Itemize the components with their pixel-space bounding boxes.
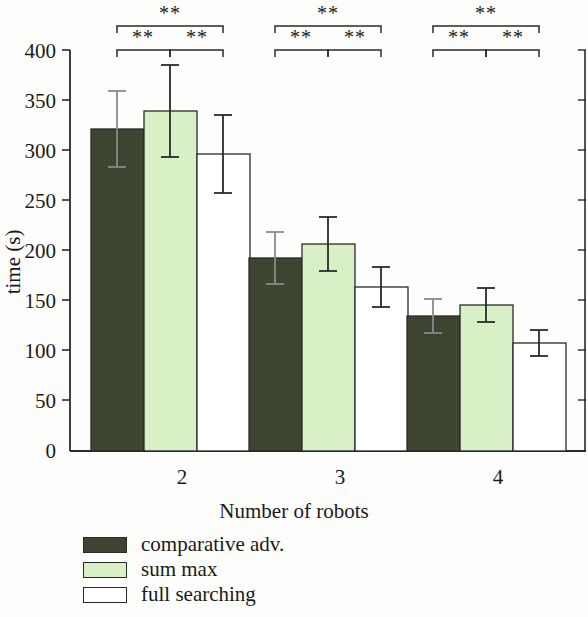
bar-full-searching-4 [513, 343, 566, 451]
y-tick-label-300: 300 [25, 139, 57, 163]
chart-legend: comparative adv. sum max full searching [83, 532, 284, 607]
legend-item-comparative-adv: comparative adv. [83, 532, 284, 557]
y-tick-label-50: 50 [35, 389, 56, 413]
sig-star-group-2-outer: ** [159, 2, 181, 24]
bar-sum-max-2 [144, 111, 197, 451]
legend-swatch-full-searching [83, 587, 127, 603]
bar-group-3 [249, 217, 408, 451]
bar-group-4 [407, 288, 566, 451]
y-tick-label-250: 250 [25, 189, 57, 213]
legend-label-comparative-adv: comparative adv. [141, 534, 284, 555]
sig-star-group-3-outer: ** [317, 2, 339, 24]
sig-star-group-4-outer: ** [475, 2, 497, 24]
chart-canvas: 400 350 300 250 200 150 100 50 0 time (s… [0, 0, 588, 617]
sig-star-group-4-inner-right: ** [502, 26, 524, 48]
bar-sum-max-4 [460, 305, 513, 451]
y-axis-ticks [62, 50, 70, 400]
bar-chart-figure: 400 350 300 250 200 150 100 50 0 time (s… [0, 0, 588, 617]
y-tick-label-200: 200 [25, 239, 57, 263]
y-tick-label-0: 0 [46, 439, 57, 463]
sig-star-group-4-inner-left: ** [448, 26, 470, 48]
bar-comparative-adv-3 [249, 258, 302, 451]
sig-star-group-3-inner-left: ** [290, 26, 312, 48]
bar-full-searching-3 [355, 287, 408, 451]
x-tick-label-2: 2 [177, 465, 188, 489]
y-tick-label-400: 400 [25, 39, 57, 63]
y-axis: 400 350 300 250 200 150 100 50 0 time (s… [1, 39, 70, 463]
bar-comparative-adv-2 [91, 129, 144, 451]
x-axis: 2 3 4 Number of robots [70, 443, 586, 523]
legend-label-full-searching: full searching [141, 584, 256, 605]
x-tick-label-3: 3 [335, 465, 346, 489]
y-tick-label-150: 150 [25, 289, 57, 313]
y-axis-title: time (s) [1, 230, 25, 295]
x-tick-label-4: 4 [493, 465, 504, 489]
legend-item-sum-max: sum max [83, 557, 284, 582]
bar-sum-max-3 [302, 244, 355, 451]
legend-label-sum-max: sum max [141, 559, 217, 580]
x-axis-title: Number of robots [219, 499, 368, 523]
legend-item-full-searching: full searching [83, 582, 284, 607]
sig-star-group-2-inner-right: ** [186, 26, 208, 48]
y-tick-label-100: 100 [25, 339, 57, 363]
bar-comparative-adv-4 [407, 316, 460, 451]
bar-full-searching-2 [197, 154, 250, 451]
sig-star-group-2-inner-left: ** [132, 26, 154, 48]
right-axis [578, 50, 586, 451]
legend-swatch-sum-max [83, 562, 127, 578]
legend-swatch-comparative-adv [83, 537, 127, 553]
bar-group-2 [91, 65, 250, 451]
y-tick-label-350: 350 [25, 89, 57, 113]
sig-star-group-3-inner-right: ** [344, 26, 366, 48]
